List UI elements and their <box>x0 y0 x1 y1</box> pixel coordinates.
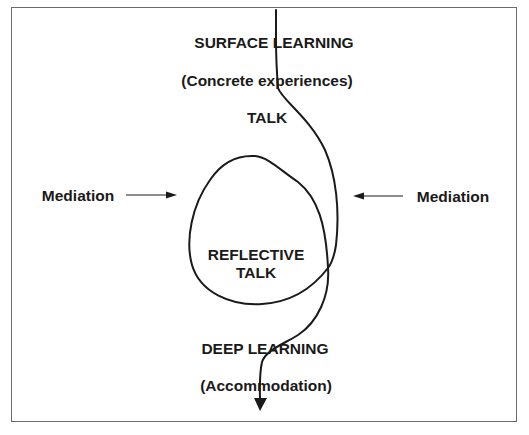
deep-learning-label: DEEP LEARNING <box>201 341 328 357</box>
reflective-talk-label: TALK <box>236 265 276 281</box>
surface-learning-label: SURFACE LEARNING <box>194 35 353 51</box>
left-arrowhead-icon <box>353 193 364 200</box>
reflective-label: REFLECTIVE <box>208 247 304 263</box>
accommodation-label: (Accommodation) <box>200 378 332 394</box>
talk-label: TALK <box>247 110 287 126</box>
concrete-experiences-label: (Concrete experiences) <box>181 73 352 89</box>
downward-arrowhead-icon <box>254 398 267 411</box>
right-arrowhead-icon <box>166 192 177 199</box>
mediation-left-label: Mediation <box>42 188 114 204</box>
learning-path-diagram <box>0 0 529 435</box>
mediation-right-label: Mediation <box>417 189 489 205</box>
